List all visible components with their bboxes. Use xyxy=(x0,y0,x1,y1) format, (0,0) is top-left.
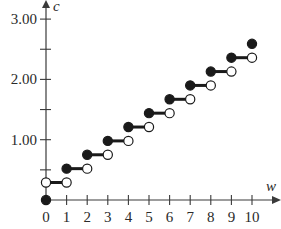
filled-dot xyxy=(227,53,236,62)
axes xyxy=(42,0,281,204)
x-tick-label: 6 xyxy=(166,209,174,225)
y-tick-label: 1.00 xyxy=(11,132,37,148)
x-tick-label: 3 xyxy=(104,209,112,225)
open-dot xyxy=(41,178,50,187)
y-axis-arrow-icon xyxy=(42,0,50,8)
x-tick-label: 10 xyxy=(245,209,260,225)
open-dot xyxy=(247,53,256,62)
x-tick-label: 2 xyxy=(83,209,91,225)
y-tick-label: 2.00 xyxy=(11,71,37,87)
open-dot xyxy=(124,136,133,145)
open-dot xyxy=(144,122,153,131)
x-tick-label: 4 xyxy=(125,209,133,225)
filled-dot xyxy=(62,164,71,173)
step-segments xyxy=(46,58,252,183)
open-dot xyxy=(165,109,174,118)
step-function-chart: 0123456789101.002.003.00 w c xyxy=(0,0,281,229)
open-dot xyxy=(103,150,112,159)
ticks: 0123456789101.002.003.00 xyxy=(11,11,260,225)
x-tick-label: 0 xyxy=(42,209,50,225)
y-tick-label: 3.00 xyxy=(11,11,37,27)
y-axis-label: c xyxy=(53,0,60,14)
endpoint-dots xyxy=(41,39,256,204)
open-dot xyxy=(83,164,92,173)
x-axis-arrow-icon xyxy=(272,196,281,204)
open-dot xyxy=(227,67,236,76)
filled-dot xyxy=(103,136,112,145)
x-tick-label: 9 xyxy=(228,209,236,225)
filled-dot xyxy=(165,95,174,104)
filled-dot xyxy=(41,195,50,204)
open-dot xyxy=(206,81,215,90)
open-dot xyxy=(62,178,71,187)
filled-dot xyxy=(206,67,215,76)
filled-dot xyxy=(144,109,153,118)
x-tick-label: 5 xyxy=(145,209,153,225)
x-axis-label: w xyxy=(266,178,276,194)
filled-dot xyxy=(124,122,133,131)
x-tick-label: 8 xyxy=(207,209,215,225)
filled-dot xyxy=(247,39,256,48)
x-tick-label: 7 xyxy=(186,209,194,225)
filled-dot xyxy=(186,81,195,90)
filled-dot xyxy=(83,150,92,159)
x-tick-label: 1 xyxy=(63,209,71,225)
open-dot xyxy=(186,95,195,104)
